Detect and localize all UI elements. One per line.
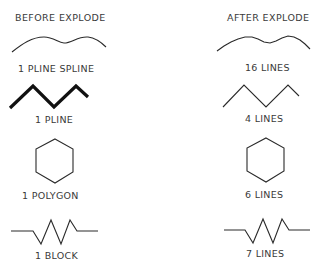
after-explode-header: AFTER EXPLODE: [227, 12, 309, 23]
after-label-pline: 4 LINES: [245, 113, 283, 124]
before-label-polygon: 1 POLYGON: [22, 190, 79, 201]
zigzag-polyline-icon: [10, 86, 88, 108]
hexagon-lines-icon: [247, 138, 284, 182]
after-spline-shape: [217, 36, 310, 51]
resistor-lines-icon: [224, 219, 310, 243]
resistor-symbol-icon: [11, 220, 98, 244]
explode-comparison-diagram: BEFORE EXPLODE AFTER EXPLODE 1 PLINE SPL…: [0, 0, 328, 266]
before-label-block: 1 BLOCK: [35, 250, 78, 261]
before-explode-header: BEFORE EXPLODE: [15, 12, 106, 23]
spline-lines-icon: [217, 36, 310, 51]
before-block-shape: [11, 220, 98, 244]
after-pline-shape: [223, 85, 299, 107]
hexagon-icon: [36, 139, 73, 183]
spline-curve-icon: [12, 37, 106, 52]
before-polygon-shape: [36, 139, 73, 183]
before-pline-shape: [10, 86, 88, 108]
after-label-block: 7 LINES: [246, 248, 284, 259]
after-polygon-shape: [247, 138, 284, 182]
before-label-spline: 1 PLINE SPLINE: [18, 63, 94, 74]
after-block-shape: [224, 219, 310, 243]
before-spline-shape: [12, 37, 106, 52]
zigzag-lines-icon: [223, 85, 299, 107]
before-label-pline: 1 PLINE: [35, 114, 73, 125]
after-label-polygon: 6 LINES: [245, 189, 283, 200]
after-label-spline: 16 LINES: [245, 62, 290, 73]
